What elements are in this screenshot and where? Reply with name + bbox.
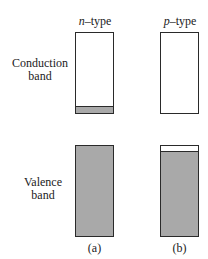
p-type-valence-band <box>160 145 199 237</box>
caption-a: (a) <box>75 242 114 255</box>
label-line: band <box>10 70 70 83</box>
n-type-header: n–type <box>70 15 120 28</box>
label-line: band <box>18 189 68 202</box>
p-type-header: p–type <box>155 15 205 28</box>
valence-band-label: Valence band <box>18 176 68 202</box>
divider-line <box>76 106 113 107</box>
electron-filled-strip <box>76 107 113 113</box>
caption-b: (b) <box>160 242 199 255</box>
type-suffix: –type <box>85 14 112 28</box>
conduction-band-label: Conduction band <box>10 57 70 83</box>
n-type-valence-band <box>75 145 114 237</box>
divider-line <box>161 151 198 152</box>
type-suffix: –type <box>170 14 197 28</box>
p-type-conduction-band <box>160 32 199 114</box>
n-type-conduction-band <box>75 32 114 114</box>
